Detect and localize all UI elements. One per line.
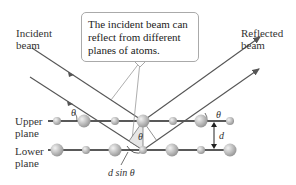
d-label: d [219,130,224,141]
callout-line3: planes of atoms. [88,44,192,57]
incident-beam-label: Incident beam [16,27,52,51]
callout-line2: reflect from different [88,31,192,44]
lower-plane-label: Lower plane [15,145,44,169]
upper-plane-label-line2: plane [15,127,43,139]
callout-box: The incident beam can reflect from diffe… [81,12,199,62]
theta-label-left: θ [71,107,76,118]
lower-plane-label-line1: Lower [15,145,44,157]
upper-plane-label-line1: Upper [15,115,43,127]
d-sin-theta-label: d sin θ [108,167,135,178]
callout-line1: The incident beam can [88,18,192,31]
reflected-beam-2 [143,69,259,150]
reflected-beam-label-line2: beam [241,39,283,51]
reflected-beam-label: Reflected beam [241,27,283,51]
incident-beam-label-line1: Incident [16,27,52,39]
upper-plane-label: Upper plane [15,115,43,139]
theta-label-center: θ [138,131,143,142]
theta-label-right: θ [216,109,221,120]
incident-beam-2 [30,77,143,150]
reflected-beam-label-line1: Reflected [241,27,283,39]
lower-plane-label-line2: plane [15,157,44,169]
incident-beam-label-line2: beam [16,39,52,51]
